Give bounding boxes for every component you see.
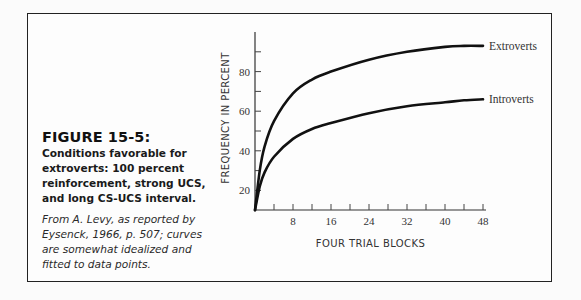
x-tick-label: 16 [326, 215, 338, 227]
y-axis-title: FREQUENCY IN PERCENT [220, 52, 231, 184]
introverts-label: Introverts [489, 93, 534, 105]
y-tick-label: 80 [239, 66, 251, 78]
x-tick-label: 40 [440, 215, 452, 227]
y-tick-label: 40 [239, 145, 251, 157]
line-chart: 2040608081624324048FOUR TRIAL BLOCKSFREQ… [0, 0, 581, 300]
x-tick-label: 24 [364, 215, 376, 227]
x-tick-label: 48 [478, 215, 490, 227]
y-tick-label: 60 [239, 105, 251, 117]
extroverts-label: Extroverts [489, 40, 537, 52]
extroverts-curve [255, 46, 483, 210]
x-tick-label: 8 [290, 215, 296, 227]
chart-series: ExtrovertsIntroverts [255, 40, 537, 210]
introverts-curve [255, 99, 483, 210]
x-axis-title: FOUR TRIAL BLOCKS [316, 238, 425, 249]
x-tick-label: 32 [402, 215, 413, 227]
y-tick-label: 20 [239, 184, 251, 196]
